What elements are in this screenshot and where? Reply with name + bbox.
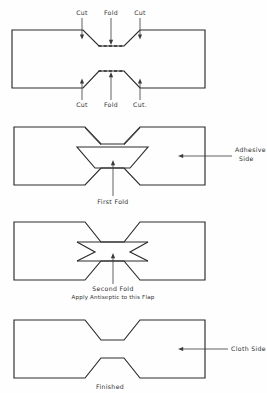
- arrowhead-left-adhesive-side: [178, 154, 183, 158]
- label-cut-bottom-right: Cut.: [133, 101, 147, 108]
- panel-1-flat-pattern: Cut Fold Cut Cut Fold Cut.: [12, 9, 205, 108]
- arrowhead-left-cloth-side: [178, 347, 183, 351]
- panel-2-crease-left: [85, 128, 101, 145]
- panel-3-second-fold: Second Fold Apply Antiseptic to this Fla…: [14, 222, 205, 301]
- caption-first-fold: First Fold: [97, 198, 128, 205]
- bandage-folding-diagram: Cut Fold Cut Cut Fold Cut.: [0, 0, 267, 393]
- arrowhead-down-cut-left: [80, 35, 84, 40]
- panel-4-finished: Cloth Side Finished: [14, 320, 266, 390]
- panel-4-outline: [14, 320, 205, 378]
- panel-2-outline: [14, 127, 205, 185]
- arrowhead-down-fold-top: [109, 40, 113, 45]
- caption-finished: Finished: [96, 383, 124, 390]
- label-adhesive-side-line1: Adhesive: [235, 146, 266, 153]
- panel-3-outline: [14, 222, 205, 280]
- caption-apply-antiseptic: Apply Antiseptic to this Flap: [72, 294, 155, 301]
- arrowhead-down-cut-right: [138, 35, 142, 40]
- diagram-canvas: Cut Fold Cut Cut Fold Cut.: [0, 0, 267, 393]
- arrowhead-up-second-fold: [111, 253, 115, 258]
- label-cut-top-right: Cut: [134, 9, 146, 16]
- panel-2-first-fold: First Fold Adhesive Side: [14, 127, 266, 205]
- panel-3-notch-right: [130, 242, 148, 261]
- panel-1-top-leaders: [80, 18, 142, 45]
- panel-1-bottom-leaders: [80, 72, 142, 100]
- label-fold-bottom-center: Fold: [104, 101, 118, 108]
- arrowhead-up-cut-bottom-left: [80, 79, 84, 84]
- panel-3-notch-left: [77, 242, 95, 261]
- label-fold-top-center: Fold: [104, 9, 118, 16]
- caption-second-fold: Second Fold: [92, 285, 133, 292]
- arrowhead-up-first-fold: [111, 160, 115, 165]
- label-adhesive-side-line2: Side: [239, 155, 254, 162]
- panel-1-outline: [12, 30, 205, 88]
- arrowhead-up-cut-bottom-right: [138, 79, 142, 84]
- label-cut-top-left: Cut: [76, 9, 88, 16]
- arrowhead-up-fold-bottom: [109, 72, 113, 77]
- label-cut-bottom-left: Cut: [76, 101, 88, 108]
- label-cloth-side: Cloth Side: [231, 345, 266, 352]
- panel-2-crease-right: [124, 128, 140, 145]
